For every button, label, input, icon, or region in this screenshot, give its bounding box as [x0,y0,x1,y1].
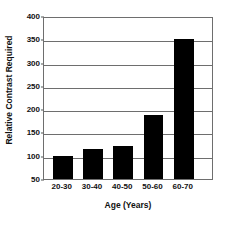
y-axis-tick-label: 100 [16,153,40,161]
y-axis-title-text: Relative Contrast Required [4,35,14,144]
y-axis-tick-label: 400 [16,13,40,21]
bar-chart-figure: Relative Contrast Required 5010015020025… [0,0,234,228]
x-axis-title: Age (Years) [43,200,213,210]
plot-area [43,17,213,180]
x-axis-tick-label: 50-60 [137,182,167,192]
bar [144,115,164,179]
bar [83,149,103,179]
bar [113,146,133,179]
y-axis-tick-label: 250 [16,83,40,91]
bar [53,156,73,179]
x-axis-tick-labels: 20-3030-4040-5050-6060-70 [43,182,213,196]
y-axis-tick-label: 350 [16,36,40,44]
y-axis-tick-label: 200 [16,106,40,114]
x-axis-tick-label: 20-30 [47,182,77,192]
bar-series [44,18,212,179]
y-axis-tick-label: 300 [16,60,40,68]
y-axis-tick-label: 150 [16,129,40,137]
y-axis-tick-labels: 50100150200250300350400 [16,0,40,228]
bar [174,39,194,179]
x-axis-tick-label: 40-50 [107,182,137,192]
x-axis-tick-label: 60-70 [168,182,198,192]
x-axis-tick-label: 30-40 [77,182,107,192]
y-axis-tick-label: 50 [16,176,40,184]
